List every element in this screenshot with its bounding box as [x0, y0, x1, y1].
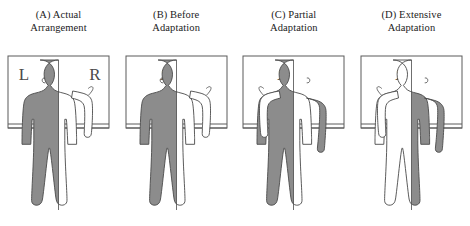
panel-b: (B) Before Adaptation R L	[118, 0, 235, 226]
panel-a-title: (A) Actual Arrangement	[0, 9, 117, 34]
panel-b-title: (B) Before Adaptation	[118, 9, 235, 34]
panel-c: (C) Partial Adaptation R L	[235, 0, 352, 226]
figure-panel-row: (A) Actual Arrangement L R	[0, 0, 470, 226]
panel-a-illustration: L R	[0, 42, 117, 226]
panel-a: (A) Actual Arrangement L R	[0, 0, 117, 226]
panel-c-illustration: R L	[235, 42, 352, 226]
panel-d: (D) Extensive Adaptation R L	[353, 0, 470, 226]
right-letter: R	[89, 65, 101, 84]
panel-c-title: (C) Partial Adaptation	[235, 9, 352, 34]
panel-b-illustration: R L	[118, 42, 235, 226]
panel-d-illustration: R L	[353, 42, 470, 226]
panel-d-title: (D) Extensive Adaptation	[353, 9, 470, 34]
left-letter: L	[19, 65, 29, 84]
